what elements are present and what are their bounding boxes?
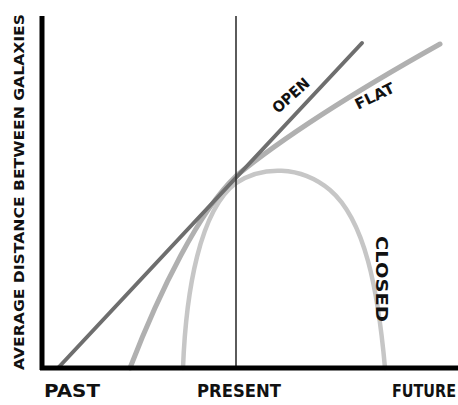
x-tick-present: PRESENT: [197, 381, 281, 401]
expansion-chart: AVERAGE DISTANCE BETWEEN GALAXIES PAST P…: [0, 0, 458, 405]
open-label: OPEN: [269, 74, 314, 117]
open-line: [58, 43, 362, 368]
closed-label: CLOSED: [372, 236, 390, 322]
x-tick-future: FUTURE: [392, 381, 456, 401]
x-tick-past: PAST: [44, 381, 100, 401]
y-axis-label: AVERAGE DISTANCE BETWEEN GALAXIES: [11, 14, 27, 370]
